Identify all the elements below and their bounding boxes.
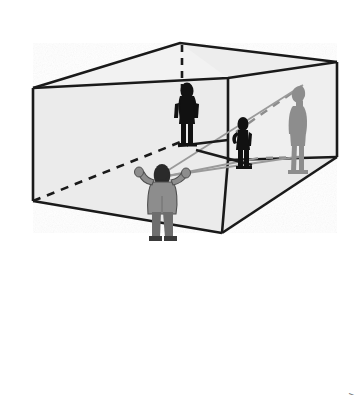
credit-watermark: hael Doolittle/Alamy [337,255,359,395]
ames-room-diagram [0,0,359,395]
